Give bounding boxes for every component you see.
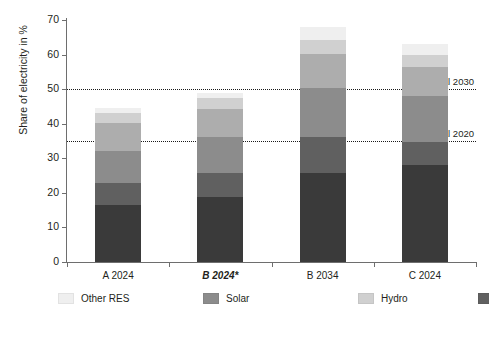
bar-segment-biomasse[interactable] xyxy=(95,123,141,150)
x-axis-tick-mark xyxy=(272,262,273,267)
bar-segment-biomasse[interactable] xyxy=(402,67,448,96)
legend-item-solar[interactable]: Solar xyxy=(203,291,358,306)
bar-segment-biomasse[interactable] xyxy=(300,54,346,89)
bar-segment-solar[interactable] xyxy=(197,137,243,173)
legend-item-hydro[interactable]: Hydro xyxy=(358,291,478,306)
legend-swatch xyxy=(478,293,489,304)
bar-segment-wind-offshore[interactable] xyxy=(402,142,448,165)
y-axis-tick-label: 70 xyxy=(37,13,59,26)
bar-segment-hydro[interactable] xyxy=(300,40,346,54)
y-axis-tick-label: 20 xyxy=(37,186,59,199)
y-axis-tick-label: 40 xyxy=(37,117,59,130)
x-axis-tick-mark xyxy=(67,262,68,267)
legend-swatch xyxy=(358,293,374,304)
legend-item-wind-offshore[interactable]: Wind offshore xyxy=(478,291,489,306)
bar-segment-other-res[interactable] xyxy=(197,93,243,99)
legend-swatch xyxy=(58,293,74,304)
legend-label: Hydro xyxy=(381,293,408,304)
bar-segment-hydro[interactable] xyxy=(95,113,141,123)
plot-area: 010203040506070 Goal 2030Goal 2020 xyxy=(67,20,476,262)
x-axis-category-label: B 2034 xyxy=(268,270,378,281)
bar-segment-wind-onshore[interactable] xyxy=(402,165,448,262)
bar-stack[interactable] xyxy=(197,20,243,262)
bar-segment-solar[interactable] xyxy=(95,151,141,183)
x-axis-category-label: C 2024 xyxy=(370,270,480,281)
chart-legend: Other RESSolarHydroWind offshoreBiomasse… xyxy=(58,291,478,306)
bar-stack[interactable] xyxy=(95,20,141,262)
chart-figure: Share of electricity in % 01020304050607… xyxy=(0,0,489,337)
y-axis-tick-label: 10 xyxy=(37,220,59,233)
bar-stack[interactable] xyxy=(402,20,448,262)
y-axis-tick-mark xyxy=(62,158,67,159)
bar-segment-solar[interactable] xyxy=(300,88,346,136)
y-axis-title: Share of electricity in % xyxy=(17,0,29,160)
y-axis-tick-label: 0 xyxy=(37,255,59,268)
bar-segment-wind-offshore[interactable] xyxy=(300,137,346,173)
x-axis-tick-mark xyxy=(374,262,375,267)
bar-segment-wind-offshore[interactable] xyxy=(197,173,243,197)
bar-segment-solar[interactable] xyxy=(402,96,448,142)
y-axis-tick-mark xyxy=(62,20,67,21)
bar-segment-hydro[interactable] xyxy=(402,55,448,68)
bar-segment-other-res[interactable] xyxy=(402,44,448,54)
bar-segment-hydro[interactable] xyxy=(197,98,243,108)
legend-label: Solar xyxy=(226,293,249,304)
legend-label: Other RES xyxy=(81,293,129,304)
x-axis-category-label: B 2024* xyxy=(165,270,275,281)
x-axis-category-label: A 2024 xyxy=(63,270,173,281)
legend-swatch xyxy=(203,293,219,304)
bar-segment-wind-onshore[interactable] xyxy=(197,197,243,262)
bar-segment-wind-onshore[interactable] xyxy=(300,173,346,262)
bar-segment-other-res[interactable] xyxy=(95,108,141,113)
y-axis-tick-mark xyxy=(62,193,67,194)
bar-segment-wind-onshore[interactable] xyxy=(95,205,141,262)
y-axis-tick-mark xyxy=(62,124,67,125)
bar-segment-other-res[interactable] xyxy=(300,27,346,40)
legend-item-other-res[interactable]: Other RES xyxy=(58,291,203,306)
bar-stack[interactable] xyxy=(300,20,346,262)
y-axis-tick-label: 30 xyxy=(37,151,59,164)
bar-segment-wind-offshore[interactable] xyxy=(95,183,141,205)
y-axis-tick-mark xyxy=(62,55,67,56)
y-axis-tick-label: 60 xyxy=(37,48,59,61)
x-axis-tick-mark xyxy=(169,262,170,267)
y-axis-tick-mark xyxy=(62,227,67,228)
bar-segment-biomasse[interactable] xyxy=(197,109,243,137)
x-axis-tick-mark xyxy=(476,262,477,267)
y-axis-tick-label: 50 xyxy=(37,82,59,95)
